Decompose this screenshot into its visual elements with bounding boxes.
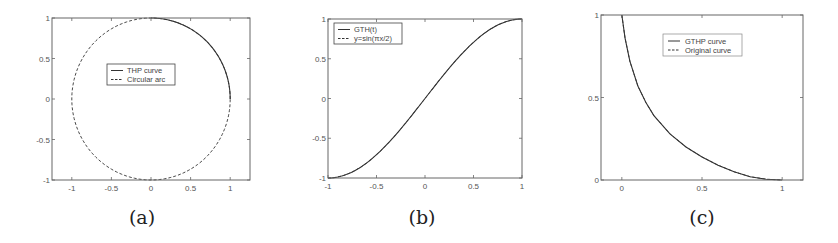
legend-label-original: Original curve	[685, 46, 731, 55]
series-thp-curve	[151, 18, 230, 99]
series-circular-arc	[72, 18, 230, 180]
y-tick-label: 0.5	[588, 94, 600, 103]
figure: -1-0.500.51-1-0.500.51 THP curve Circula…	[0, 0, 838, 243]
plot-b-legend: GTH(t) y=sin(πx/2)	[334, 23, 402, 44]
x-tick-label: -0.5	[370, 182, 384, 191]
x-tick-label: 0	[423, 182, 428, 191]
y-tick-label: 0.5	[315, 55, 327, 64]
panel-a: -1-0.500.51-1-0.500.51 THP curve Circula…	[36, 14, 250, 228]
x-tick-label: 1	[228, 184, 233, 193]
legend-label-gthp: GTHP curve	[685, 37, 726, 46]
x-tick-label: 0.5	[185, 184, 197, 193]
y-tick-label: -0.5	[312, 134, 326, 143]
panel-b: -1-0.500.51-1-0.500.51 GTH(t) y=sin(πx/2…	[312, 15, 525, 228]
y-tick-label: 1	[595, 11, 600, 20]
caption-b: (b)	[409, 206, 436, 228]
caption-a: (a)	[129, 206, 155, 228]
x-tick-label: -1	[324, 182, 332, 191]
plot-a-marks	[72, 18, 230, 180]
plot-a-ticks: -1-0.500.51-1-0.500.51	[36, 14, 250, 193]
x-tick-label: 1	[780, 184, 785, 193]
caption-c: (c)	[689, 206, 714, 228]
y-tick-label: 1	[322, 15, 327, 24]
y-tick-label: 0.5	[39, 55, 51, 64]
y-tick-label: 1	[46, 14, 51, 23]
y-tick-label: -1	[319, 174, 327, 183]
x-tick-label: 0.5	[468, 182, 480, 191]
x-tick-label: 0	[620, 184, 625, 193]
y-tick-label: 0	[595, 176, 600, 185]
y-tick-label: -0.5	[36, 136, 50, 145]
y-tick-label: 0	[46, 95, 51, 104]
x-tick-label: 0.5	[696, 184, 708, 193]
plot-a-axes	[52, 18, 250, 180]
x-tick-label: -0.5	[105, 184, 119, 193]
panel-c: 00.5100.51 GTHP curve Original curve (c)	[588, 11, 803, 228]
plot-a-legend: THP curve Circular arc	[107, 64, 175, 85]
legend-label-sin: y=sin(πx/2)	[354, 34, 392, 43]
legend-label-gth: GTH(t)	[354, 25, 377, 34]
plot-c-legend: GTHP curve Original curve	[663, 34, 742, 56]
y-tick-label: -1	[43, 176, 51, 185]
x-tick-label: 1	[520, 182, 525, 191]
legend-label-circular: Circular arc	[127, 75, 166, 84]
x-tick-label: -1	[68, 184, 76, 193]
y-tick-label: 0	[322, 95, 327, 104]
legend-label-thp: THP curve	[127, 66, 162, 75]
x-tick-label: 0	[149, 184, 154, 193]
